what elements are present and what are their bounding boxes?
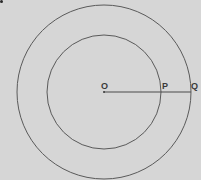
stray-mark xyxy=(0,0,3,3)
point-o-dot xyxy=(103,91,105,93)
label-p: P xyxy=(162,82,168,91)
label-o: O xyxy=(101,82,108,91)
label-q: Q xyxy=(191,82,198,91)
